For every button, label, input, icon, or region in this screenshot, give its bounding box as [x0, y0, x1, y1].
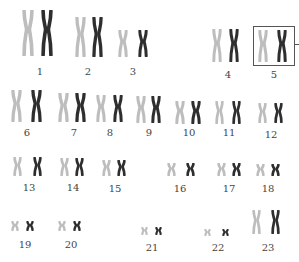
chromosome-light-8 [96, 95, 106, 122]
chromosome-dark-21 [155, 227, 162, 235]
chromosome-dark-14 [75, 158, 84, 176]
chromosome-light-10 [175, 101, 185, 124]
pair-label: 4 [216, 70, 240, 80]
highlight-pointer-line [295, 44, 299, 45]
pair-label: 9 [137, 128, 161, 138]
pair-label: 11 [217, 128, 241, 138]
chromosome-dark-1 [41, 10, 53, 56]
pair-label: 3 [121, 67, 145, 77]
pair-label: 15 [103, 184, 127, 194]
chromosome-light-19 [11, 221, 19, 231]
pair-label: 16 [168, 184, 192, 194]
pair-label: 19 [13, 240, 37, 250]
chromosome-dark-5 [277, 30, 287, 62]
chromosome-dark-10 [191, 101, 201, 124]
pair-label: 20 [59, 240, 83, 250]
pair-label: 12 [259, 130, 283, 140]
chromosome-dark-19 [26, 221, 34, 231]
chromosome-dark-12 [274, 103, 283, 123]
chromosome-light-21 [141, 227, 148, 235]
chromosome-light-4 [212, 29, 222, 62]
chromosome-light-3 [118, 30, 128, 57]
pair-label: 10 [177, 128, 201, 138]
chromosome-light-18 [256, 164, 265, 176]
pair-label: 6 [15, 128, 39, 138]
pair-label: 17 [217, 184, 241, 194]
chromosome-dark-22 [222, 229, 229, 236]
pair-label: 1 [28, 67, 52, 77]
chromosome-dark-9 [151, 96, 161, 123]
pair-label: 21 [140, 243, 164, 253]
chromosome-dark-4 [229, 29, 239, 62]
chromosome-light-7 [58, 93, 69, 122]
chromosome-light-14 [60, 158, 69, 176]
chromosome-dark-17 [232, 163, 241, 176]
chromosome-dark-3 [138, 30, 148, 57]
pair-label: 8 [98, 128, 122, 138]
pair-label: 14 [61, 183, 85, 193]
pair-label: 5 [262, 70, 286, 80]
chromosome-dark-18 [271, 164, 280, 176]
karyotype-diagram: 1234567891011121314151617181920212223 [0, 0, 299, 262]
pair-label: 7 [62, 128, 86, 138]
chromosome-light-2 [75, 17, 86, 57]
chromosome-dark-11 [232, 101, 241, 124]
chromosome-light-13 [13, 157, 22, 176]
pair-label: 23 [256, 243, 280, 253]
chromosome-light-9 [136, 96, 146, 123]
pair-label: 13 [17, 183, 41, 193]
chromosome-light-11 [215, 101, 224, 124]
chromosome-dark-15 [117, 160, 126, 176]
chromosome-light-6 [11, 90, 22, 122]
pair-label: 22 [206, 243, 230, 253]
chromosome-light-16 [167, 163, 176, 176]
chromosome-light-5 [258, 30, 268, 62]
chromosome-dark-13 [33, 157, 42, 176]
chromosome-dark-7 [75, 93, 86, 122]
chromosome-dark-6 [31, 90, 42, 122]
chromosome-dark-23 [271, 210, 280, 234]
chromosome-light-1 [22, 10, 34, 56]
chromosome-light-15 [102, 160, 111, 176]
chromosome-dark-2 [92, 17, 103, 57]
chromosome-light-17 [217, 163, 226, 176]
chromosome-light-23 [252, 210, 261, 234]
chromosome-light-12 [258, 103, 267, 123]
chromosome-dark-20 [73, 221, 81, 231]
pair-label: 2 [76, 67, 100, 77]
chromosome-dark-16 [186, 163, 195, 176]
pair-label: 18 [256, 184, 280, 194]
chromosome-light-20 [58, 221, 66, 231]
chromosome-light-22 [204, 229, 211, 236]
chromosome-dark-8 [113, 95, 123, 122]
